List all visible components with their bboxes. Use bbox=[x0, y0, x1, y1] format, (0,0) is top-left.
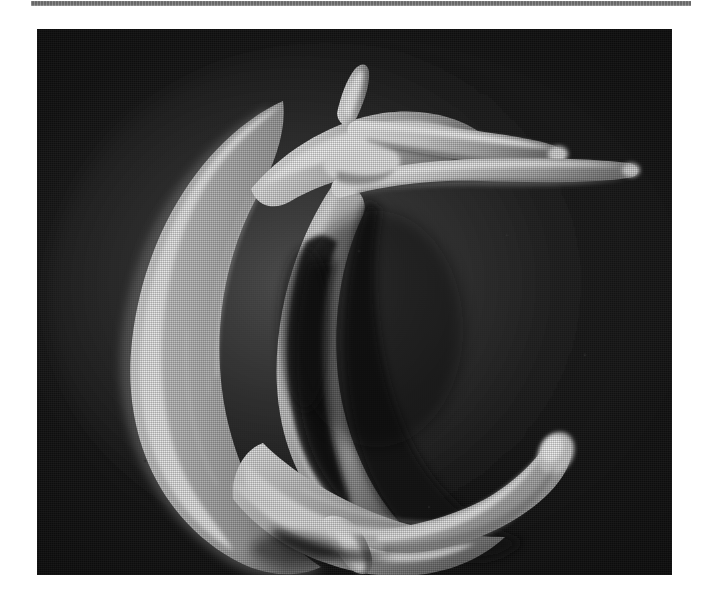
horizontal-rule bbox=[31, 1, 691, 6]
figure-caption bbox=[37, 578, 672, 602]
scanned-page bbox=[0, 0, 708, 603]
sem-micrograph-plate bbox=[37, 29, 672, 575]
specimen-illustration bbox=[37, 29, 672, 575]
